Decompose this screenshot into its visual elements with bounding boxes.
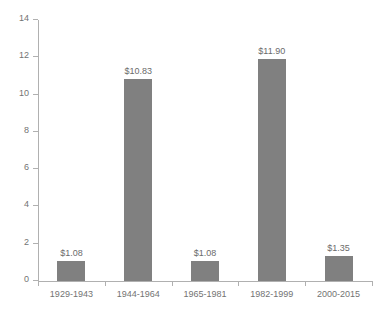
- y-axis-tick-label: 12: [19, 50, 29, 60]
- bar-value-label: $1.08: [194, 248, 217, 258]
- x-axis-tick: [305, 281, 306, 286]
- y-axis-tick-label: 0: [24, 274, 29, 284]
- y-axis-tick: 2: [33, 243, 38, 244]
- x-axis-label: 1929-1943: [50, 289, 93, 299]
- x-axis-tick: [38, 281, 39, 286]
- bar[interactable]: $11.90: [258, 59, 286, 281]
- y-axis-tick: 4: [33, 205, 38, 206]
- y-axis-tick-label: 6: [24, 162, 29, 172]
- bar[interactable]: $1.08: [57, 261, 85, 281]
- x-axis-label: 1982-1999: [250, 289, 293, 299]
- y-axis-tick: 8: [33, 131, 38, 132]
- y-axis-tick-label: 8: [24, 125, 29, 135]
- bar-chart: 02468101214$1.08$10.83$1.08$11.90$1.35 1…: [0, 0, 379, 312]
- x-axis-tick: [372, 281, 373, 286]
- x-axis-label: 1965-1981: [183, 289, 226, 299]
- x-axis-tick: [172, 281, 173, 286]
- bar[interactable]: $1.08: [191, 261, 219, 281]
- x-axis-label: 1944-1964: [117, 289, 160, 299]
- y-axis-tick-label: 4: [24, 199, 29, 209]
- y-axis-tick: 10: [33, 94, 38, 95]
- bar[interactable]: $1.35: [325, 256, 353, 281]
- bar[interactable]: $10.83: [124, 79, 152, 281]
- bar-value-label: $11.90: [258, 46, 285, 56]
- x-axis-tick: [105, 281, 106, 286]
- y-axis-tick: 6: [33, 168, 38, 169]
- bar-value-label: $1.35: [327, 243, 350, 253]
- y-axis-tick: 12: [33, 56, 38, 57]
- y-axis-tick-label: 10: [19, 88, 29, 98]
- y-axis-tick-label: 14: [19, 13, 29, 23]
- y-axis-tick-label: 2: [24, 237, 29, 247]
- bar-value-label: $1.08: [60, 248, 83, 258]
- bar-value-label: $10.83: [124, 66, 152, 76]
- plot-area: 02468101214$1.08$10.83$1.08$11.90$1.35: [38, 20, 372, 281]
- x-axis-label: 2000-2015: [317, 289, 360, 299]
- x-axis-tick: [238, 281, 239, 286]
- x-axis-line: [38, 281, 372, 282]
- y-axis-tick: 14: [33, 19, 38, 20]
